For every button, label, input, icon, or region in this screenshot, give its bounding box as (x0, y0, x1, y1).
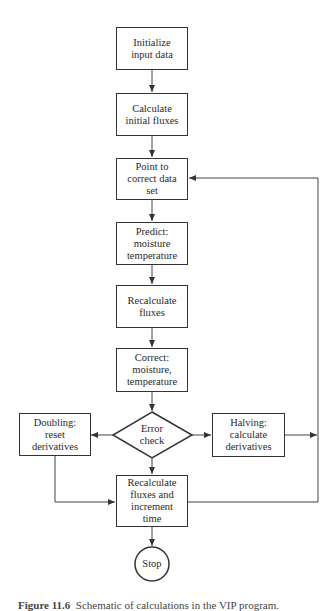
node-label: Correct: moisture, temperature (119, 352, 185, 388)
node-recalculate-fluxes-and-increment-time: Recalculate fluxes and increment time (116, 475, 188, 527)
node-calculate-initial-fluxes: Calculate initial fluxes (116, 93, 188, 136)
node-label: Error check (135, 423, 169, 447)
node-doubling: Doubling: reset derivatives (19, 413, 91, 456)
node-label: Stop (142, 558, 161, 570)
figure-number: Figure 11.6 (18, 599, 70, 611)
node-label: Recalculate fluxes and increment time (121, 477, 183, 525)
node-label: Recalculate fluxes (122, 295, 182, 319)
figure-caption-text: Schematic of calculations in the VIP pro… (76, 599, 279, 611)
node-halving: Halving: calculate derivatives (212, 413, 285, 457)
node-recalculate-fluxes: Recalculate fluxes (116, 285, 188, 328)
figure-caption: Figure 11.6 Schematic of calculations in… (18, 599, 279, 611)
node-predict: Predict: moisture temperature (116, 222, 188, 265)
node-error-check: Error check (120, 422, 184, 448)
node-label: Doubling: reset derivatives (24, 417, 86, 453)
node-label: Calculate initial fluxes (119, 103, 185, 127)
node-label: Predict: moisture temperature (119, 226, 185, 262)
node-label: Point to correct data set (126, 161, 178, 197)
node-correct: Correct: moisture, temperature (116, 348, 188, 392)
node-label: Halving: calculate derivatives (218, 417, 280, 453)
node-label: Initialize input data (126, 37, 178, 61)
node-point-to-correct-data-set: Point to correct data set (116, 158, 188, 200)
node-initialize-input-data: Initialize input data (116, 27, 188, 70)
node-stop: Stop (135, 547, 169, 581)
